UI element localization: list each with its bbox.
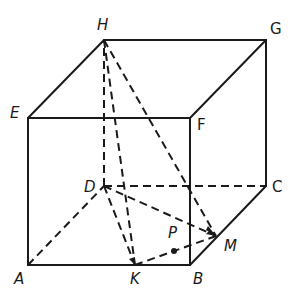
edge-EH <box>28 40 104 118</box>
edge-HK <box>104 40 135 265</box>
vertex-label-M: M <box>224 239 237 254</box>
vertex-label-D: D <box>84 180 96 195</box>
cube-drawing <box>0 0 293 297</box>
vertex-label-F: F <box>197 118 206 133</box>
vertex-label-C: C <box>272 180 282 195</box>
point-label-P: P <box>168 226 177 241</box>
vertex-label-B: B <box>193 272 203 287</box>
vertex-label-A: A <box>14 272 24 287</box>
vertex-label-E: E <box>10 106 19 121</box>
vertex-label-G: G <box>270 22 282 37</box>
cube-diagram: H G E F D C A B K M P <box>0 0 293 297</box>
edge-AD <box>28 186 104 265</box>
edge-GF <box>190 40 266 118</box>
vertex-label-H: H <box>97 18 108 33</box>
arrow-icon <box>129 257 135 265</box>
edge-HM <box>104 40 216 236</box>
point-P-dot <box>171 248 177 254</box>
vertex-label-K: K <box>130 272 140 287</box>
